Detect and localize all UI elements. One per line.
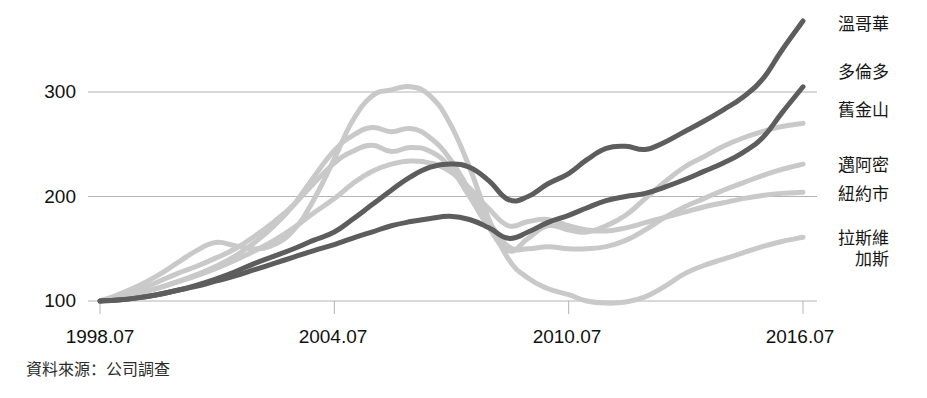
source-note: 資料來源：公司調查 — [26, 356, 170, 380]
y-tick-label-300: 300 — [24, 81, 76, 103]
legend-label-miami: 邁阿密 — [838, 155, 889, 176]
legend-label-new-york-city: 紐約市 — [838, 184, 889, 205]
legend-label-vancouver: 溫哥華 — [838, 14, 889, 35]
axis-lines — [100, 301, 803, 314]
legend-label-san-francisco: 舊金山 — [838, 100, 889, 121]
legend-label-toronto: 多倫多 — [838, 62, 889, 83]
x-tick-label-1998: 1998.07 — [60, 326, 140, 348]
legend-label-las-vegas-line2: 加斯 — [855, 249, 889, 270]
series-lines — [100, 21, 832, 303]
y-tick-label-200: 200 — [24, 186, 76, 208]
x-tick-label-2004: 2004.07 — [293, 326, 373, 348]
house-price-index-chart: 300 200 100 1998.07 2004.07 2010.07 2016… — [0, 0, 927, 398]
x-tick-label-2010: 2010.07 — [527, 326, 607, 348]
y-tick-label-100: 100 — [24, 290, 76, 312]
x-tick-label-2016: 2016.07 — [760, 326, 840, 348]
legend-label-las-vegas-line1: 拉斯維 — [838, 228, 889, 249]
